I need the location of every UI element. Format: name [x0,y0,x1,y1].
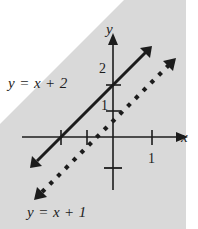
graph-figure: y x 2 1 1 y = x + 2 y = x + 1 [0,0,198,229]
shaded-region [0,0,198,229]
equation-label-solid-line: y = x + 2 [8,76,68,91]
y-axis-tick-label-2: 2 [99,62,106,76]
equation-label-dashed-line: y = x + 1 [27,205,87,220]
y-axis-tick-label-1: 1 [101,99,108,113]
x-axis-label: x [181,130,188,145]
x-axis-tick-label-1: 1 [148,152,155,166]
y-axis-label: y [106,22,113,37]
coordinate-plane [0,0,198,229]
